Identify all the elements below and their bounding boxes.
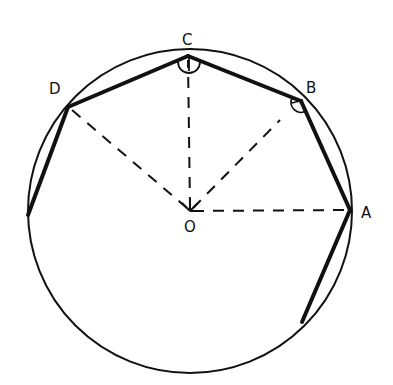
label-B: B (306, 79, 316, 97)
side-D-left (28, 107, 68, 215)
side-CD (68, 56, 188, 107)
label-D: D (49, 80, 61, 98)
radius-OC (188, 60, 190, 208)
radius-OB (193, 120, 280, 208)
label-C: C (182, 31, 192, 49)
label-A: A (361, 204, 372, 222)
radius-OA (193, 210, 350, 211)
label-O: O (184, 218, 196, 236)
radius-OD (72, 110, 187, 208)
diagram-canvas: A B C D O (0, 0, 393, 385)
center-marks (182, 199, 201, 211)
